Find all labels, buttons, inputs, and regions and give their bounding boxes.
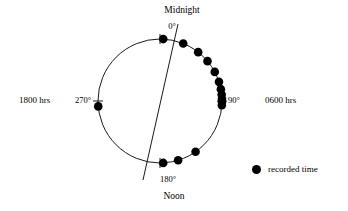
recorded-time-points: [94, 35, 226, 167]
label-midnight: Midnight: [164, 6, 199, 16]
data-point: [159, 35, 168, 44]
legend: recorded time: [252, 164, 318, 174]
figure-canvas: Midnight 0° 90° 180° Noon 270° 1800 hrs …: [0, 0, 348, 211]
data-point: [191, 147, 200, 156]
data-point: [94, 102, 103, 111]
data-point: [174, 156, 183, 165]
mean-axis-line: [143, 24, 178, 180]
recorded-time-marker-icon: [252, 165, 261, 174]
data-point: [210, 68, 219, 77]
data-point: [179, 39, 188, 48]
label-angle-90: 90°: [228, 96, 240, 105]
label-1800-hrs: 1800 hrs: [19, 96, 50, 105]
legend-label: recorded time: [268, 164, 318, 174]
label-angle-0: 0°: [168, 22, 176, 31]
label-noon: Noon: [163, 192, 184, 202]
data-point: [215, 78, 224, 87]
label-0600-hrs: 0600 hrs: [265, 96, 296, 105]
time-circle: [98, 39, 222, 163]
data-point: [194, 48, 203, 57]
time-circle-group: [98, 39, 222, 163]
label-angle-180: 180°: [160, 175, 176, 184]
label-angle-270: 270°: [75, 96, 91, 105]
data-point: [159, 159, 168, 168]
data-point: [218, 101, 227, 110]
data-point: [203, 57, 212, 66]
axis-tick-group: [93, 34, 227, 168]
